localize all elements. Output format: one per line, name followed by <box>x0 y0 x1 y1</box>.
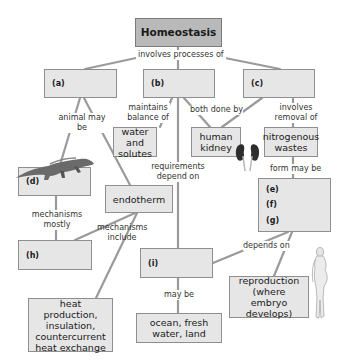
node-c: (c) <box>243 69 315 98</box>
node-g: (g) <box>266 215 279 226</box>
label-mechanisms-include: mechanisms include <box>97 223 147 243</box>
reproduction-node: reproduction (where embryo develops) <box>229 276 309 318</box>
label-maintains-balance-of: maintains balance of <box>126 103 170 123</box>
label-involves-removal-of: involves removal of <box>272 103 320 123</box>
heat-mechanisms-node: heat production, insulation, countercurr… <box>28 298 113 352</box>
node-f: (f) <box>266 199 277 210</box>
label-requirements-depend-on: requirements depend on <box>150 162 206 182</box>
label-form-may-be: form may be <box>270 164 321 174</box>
kidneys-illustration <box>234 142 264 172</box>
endotherm-node: endotherm <box>105 185 173 213</box>
lizard-illustration <box>14 150 96 186</box>
label-may-be: may be <box>164 290 194 300</box>
node-efg: (e) (f) (g) <box>258 178 331 232</box>
habitat-node: ocean, fresh water, land <box>136 313 222 343</box>
water-and-solutes-node: water and solutes <box>113 127 157 157</box>
homeostasis-node: Homeostasis <box>135 18 222 47</box>
link-efg-repro <box>274 232 292 276</box>
label-animal-may-be: animal may be <box>58 113 106 133</box>
node-i: (i) <box>140 248 213 278</box>
label-involves-processes-of: involves processes of <box>136 50 226 60</box>
node-h: (h) <box>18 240 92 270</box>
label-both-done-by: both done by <box>190 105 243 115</box>
nitrogenous-wastes-node: nitrogenous wastes <box>264 127 318 157</box>
node-b: (b) <box>143 69 215 98</box>
pregnant-woman-illustration <box>309 246 331 320</box>
node-a: (a) <box>44 69 117 98</box>
label-mechanisms-mostly: mechanisms mostly <box>28 210 86 230</box>
node-e: (e) <box>266 184 279 195</box>
label-depends-on: depends on <box>243 241 290 251</box>
